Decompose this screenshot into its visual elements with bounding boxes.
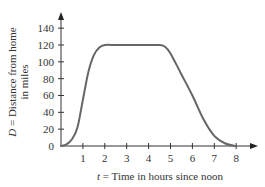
x-tick-label: 4	[146, 152, 152, 164]
y-tick-label: 80	[43, 73, 55, 85]
distance-curve	[61, 45, 236, 146]
y-tick-label: 0	[49, 140, 55, 152]
y-axis-title: D = Distance from home in miles	[6, 27, 30, 138]
y-axis-arrow-icon	[58, 12, 64, 20]
axes	[58, 12, 258, 149]
x-tick-label: 6	[190, 152, 196, 164]
y-axis-var: D	[6, 129, 18, 138]
x-tick-label: 1	[80, 152, 86, 164]
x-tick-label: 3	[124, 152, 130, 164]
y-axis-title-line1: D = Distance from home	[6, 27, 18, 138]
y-tick-label: 100	[38, 56, 55, 68]
y-tick-label: 20	[43, 123, 55, 135]
x-axis-text: = Time in hours since noon	[100, 170, 223, 182]
y-tick-label: 40	[43, 106, 55, 118]
y-axis-title-line2: in miles	[18, 64, 30, 99]
distance-time-chart: 12345678020406080100120140 t = Time in h…	[0, 0, 265, 187]
y-tick-label: 120	[38, 39, 55, 51]
x-tick-label: 5	[168, 152, 174, 164]
chart-canvas: 12345678020406080100120140 t = Time in h…	[0, 0, 265, 187]
x-tick-label: 7	[212, 152, 218, 164]
y-tick-label: 60	[43, 89, 55, 101]
x-tick-label: 8	[233, 152, 239, 164]
x-tick-label: 2	[102, 152, 108, 164]
x-axis-title: t = Time in hours since noon	[97, 170, 223, 182]
y-axis-text: = Distance from home	[6, 27, 18, 129]
y-tick-label: 140	[38, 22, 55, 34]
x-axis-arrow-icon	[250, 143, 258, 149]
series-layer	[61, 45, 236, 146]
